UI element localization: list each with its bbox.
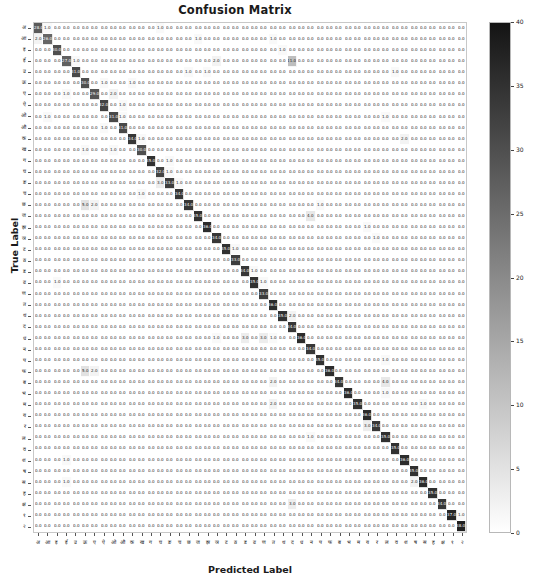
heatmap-cell: 0.0: [203, 211, 212, 222]
y-axis-tick-mark: [28, 105, 31, 106]
heatmap-cell: 1.0: [212, 333, 221, 344]
heatmap-cell-value: 0.0: [73, 92, 79, 96]
heatmap-cell: 0.0: [400, 266, 409, 277]
heatmap-cell: 0.0: [316, 134, 325, 145]
heatmap-cell-value: 0.0: [82, 192, 88, 196]
heatmap-cell: 0.0: [297, 89, 306, 100]
heatmap-cell-value: 0.0: [251, 170, 257, 174]
heatmap-cell: 0.0: [344, 333, 353, 344]
heatmap-cell-value: 1.0: [307, 435, 313, 439]
heatmap-cell: 0.0: [184, 56, 193, 67]
heatmap-cell-value: 0.0: [232, 48, 238, 52]
heatmap-cell: 0.0: [137, 477, 146, 488]
heatmap-cell: 0.0: [316, 34, 325, 45]
heatmap-cell: 0.0: [81, 322, 90, 333]
heatmap-cell: 0.0: [119, 510, 128, 521]
heatmap-cell-value: 0.0: [204, 347, 210, 351]
heatmap-cell-value: 0.0: [392, 413, 398, 417]
heatmap-cell-value: 0.0: [279, 435, 285, 439]
heatmap-cell: 0.0: [222, 45, 231, 56]
heatmap-cell: 0.0: [222, 156, 231, 167]
heatmap-cell: 35.0: [147, 156, 156, 167]
heatmap-cell: 0.0: [128, 333, 137, 344]
heatmap-cell-value: 0.0: [91, 269, 97, 273]
heatmap-cell-value: 0.0: [317, 402, 323, 406]
heatmap-cell-value: 0.0: [82, 336, 88, 340]
heatmap-cell: 0.0: [241, 211, 250, 222]
heatmap-cell-value: 0.0: [420, 48, 426, 52]
heatmap-cell: 0.0: [278, 410, 287, 421]
heatmap-cell: 0.0: [306, 145, 315, 156]
heatmap-cell: 0.0: [269, 499, 278, 510]
heatmap-cell: 0.0: [203, 399, 212, 410]
heatmap-cell: 0.0: [457, 477, 466, 488]
heatmap-cell: 0.0: [372, 23, 381, 34]
heatmap-cell: 0.0: [447, 388, 456, 399]
heatmap-cell: 0.0: [184, 156, 193, 167]
heatmap-cell-value: 0.0: [176, 26, 182, 30]
heatmap-cell: 0.0: [288, 355, 297, 366]
heatmap-cell-value: 0.0: [373, 103, 379, 107]
heatmap-cell: 0.0: [119, 67, 128, 78]
heatmap-cell: 0.0: [269, 100, 278, 111]
heatmap-cell: 0.0: [137, 377, 146, 388]
heatmap-cell-value: 0.0: [354, 148, 360, 152]
heatmap-cell-value: 0.0: [392, 402, 398, 406]
heatmap-cell-value: 0.0: [279, 115, 285, 119]
heatmap-cell: 0.0: [90, 410, 99, 421]
heatmap-cell: 0.0: [447, 233, 456, 244]
heatmap-cell-value: 0.0: [270, 203, 276, 207]
heatmap-cell-value: 0.0: [448, 347, 454, 351]
heatmap-cell-value: 0.0: [120, 203, 126, 207]
heatmap-cell: 0.0: [410, 189, 419, 200]
heatmap-cell-value: 0.0: [279, 281, 285, 285]
heatmap-cell-value: 0.0: [195, 247, 201, 251]
heatmap-cell-value: 0.0: [251, 203, 257, 207]
heatmap-cell: 0.0: [297, 23, 306, 34]
heatmap-cell: 0.0: [428, 112, 437, 123]
heatmap-cell-value: 0.0: [354, 126, 360, 130]
heatmap-cell: 0.0: [231, 266, 240, 277]
heatmap-cell-value: 0.0: [260, 513, 266, 517]
heatmap-cell: 0.0: [400, 333, 409, 344]
heatmap-cell: 0.0: [165, 100, 174, 111]
heatmap-cell-value: 0.0: [317, 347, 323, 351]
heatmap-cell-value: 0.0: [44, 181, 50, 185]
heatmap-cell-value: 0.0: [317, 48, 323, 52]
heatmap-cell-value: 0.0: [185, 269, 191, 273]
heatmap-cell-value: 0.0: [317, 424, 323, 428]
heatmap-cell: 0.0: [419, 200, 428, 211]
heatmap-cell-value: 0.0: [439, 513, 445, 517]
heatmap-cell-value: 0.0: [242, 413, 248, 417]
heatmap-cell-value: 0.0: [82, 413, 88, 417]
heatmap-cell-value: 0.0: [223, 347, 229, 351]
heatmap-cell: 0.0: [137, 300, 146, 311]
heatmap-cell: 0.0: [438, 167, 447, 178]
heatmap-cell: 0.0: [410, 244, 419, 255]
heatmap-cell-value: 0.0: [120, 48, 126, 52]
heatmap-cell-value: 1.0: [63, 92, 69, 96]
heatmap-cell-value: 0.0: [213, 369, 219, 373]
heatmap-cell: 0.0: [165, 134, 174, 145]
heatmap-cell-value: 0.0: [63, 347, 69, 351]
heatmap-cell-value: 0.0: [157, 103, 163, 107]
heatmap-cell-value: 0.0: [354, 214, 360, 218]
heatmap-cell-value: 0.0: [326, 148, 332, 152]
heatmap-cell-value: 0.0: [35, 314, 41, 318]
heatmap-cell-value: 0.0: [232, 336, 238, 340]
y-axis-tick-label: आ: [21, 36, 26, 41]
heatmap-cell: 0.0: [269, 388, 278, 399]
heatmap-cell: 0.0: [391, 45, 400, 56]
heatmap-cell: 0.0: [353, 23, 362, 34]
heatmap-cell: 0.0: [147, 255, 156, 266]
heatmap-cell: 0.0: [316, 56, 325, 67]
heatmap-cell-value: 0.0: [204, 303, 210, 307]
heatmap-cell: 0.0: [438, 78, 447, 89]
heatmap-cell-value: 0.0: [63, 203, 69, 207]
heatmap-cell: 27.0: [62, 56, 71, 67]
heatmap-cell: 0.0: [156, 521, 165, 532]
heatmap-cell: 0.0: [306, 178, 315, 189]
heatmap-cell: 0.0: [147, 145, 156, 156]
heatmap-cell: 0.0: [128, 455, 137, 466]
heatmap-cell-value: 0.0: [91, 380, 97, 384]
